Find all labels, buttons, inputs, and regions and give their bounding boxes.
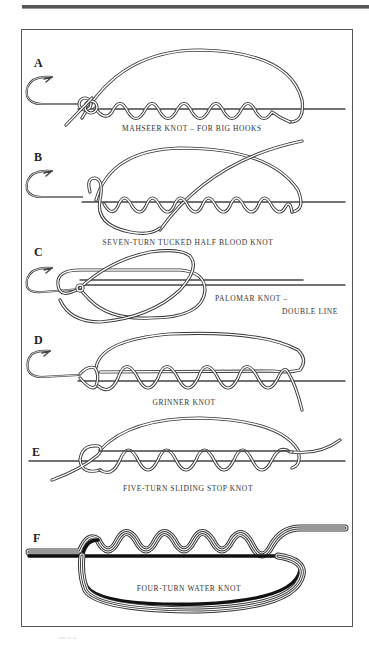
caption-palomar-knot-line1: PALOMAR KNOT –	[215, 294, 288, 303]
caption-grinner-knot: GRINNER KNOT	[152, 398, 215, 407]
caption-palomar-knot-line2: DOUBLE LINE	[282, 307, 338, 316]
hook-icon-d	[28, 351, 79, 377]
panel-label-e: E	[32, 445, 40, 460]
hook-icon-a	[27, 77, 78, 104]
panel-e-illustration	[29, 418, 345, 480]
panel-label-d: D	[34, 333, 43, 348]
knot-illustrations: .dl { fill: none; stroke: #333; stroke-w…	[0, 0, 369, 651]
caption-seven-turn-tucked-half-blood-knot: SEVEN-TURN TUCKED HALF BLOOD KNOT	[103, 238, 274, 247]
footer-mark: ~~ ~ ~	[58, 634, 77, 642]
caption-five-turn-sliding-stop-knot: FIVE-TURN SLIDING STOP KNOT	[123, 484, 253, 493]
panel-label-c: C	[34, 245, 43, 260]
panel-f-illustration	[29, 528, 345, 610]
panel-a-illustration	[27, 50, 345, 125]
panel-b-illustration	[27, 141, 345, 233]
panel-label-b: B	[34, 150, 42, 165]
panel-label-a: A	[34, 56, 43, 71]
caption-mahseer-knot: MAHSEER KNOT – FOR BIG HOOKS	[122, 124, 262, 133]
panel-label-f: F	[33, 531, 40, 546]
caption-four-turn-water-knot: FOUR-TURN WATER KNOT	[137, 584, 241, 593]
hook-icon-b	[27, 171, 82, 197]
